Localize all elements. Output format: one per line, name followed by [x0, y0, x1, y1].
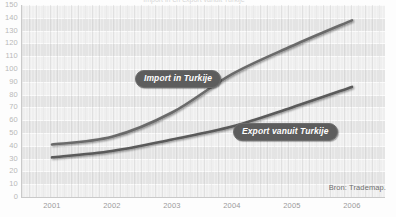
- annotation-export-label: Export vanuit Turkije: [233, 123, 338, 141]
- y-axis-tick: 100: [0, 65, 18, 73]
- x-axis-tick: 2002: [92, 201, 132, 210]
- source-note: Bron: Trademap.: [329, 183, 386, 192]
- y-axis-tick: 20: [0, 167, 18, 175]
- annotation-import-label: Import in Turkije: [135, 70, 221, 88]
- y-axis-tick: 60: [0, 116, 18, 124]
- y-axis-tick: 30: [0, 155, 18, 163]
- y-axis-tick: 140: [0, 14, 18, 22]
- y-axis-tick: 10: [0, 180, 18, 188]
- y-axis-tick: 40: [0, 142, 18, 150]
- y-axis-tick: 90: [0, 78, 18, 86]
- y-axis-tick: 120: [0, 39, 18, 47]
- y-axis-tick: 110: [0, 52, 18, 60]
- chart-figure: Import in en export vanuit Turkije: [0, 0, 396, 217]
- x-axis-tick: 2006: [332, 201, 372, 210]
- x-axis-tick: 2003: [152, 201, 192, 210]
- y-axis-tick: 50: [0, 129, 18, 137]
- y-axis-tick: 130: [0, 27, 18, 35]
- y-axis-tick: 0: [0, 193, 18, 201]
- y-axis-tick: 80: [0, 91, 18, 99]
- x-axis-tick: 2005: [272, 201, 312, 210]
- x-axis-tick: 2004: [212, 201, 252, 210]
- y-axis-tick: 70: [0, 103, 18, 111]
- y-axis-tick: 150: [0, 1, 18, 9]
- x-axis-tick: 2001: [32, 201, 72, 210]
